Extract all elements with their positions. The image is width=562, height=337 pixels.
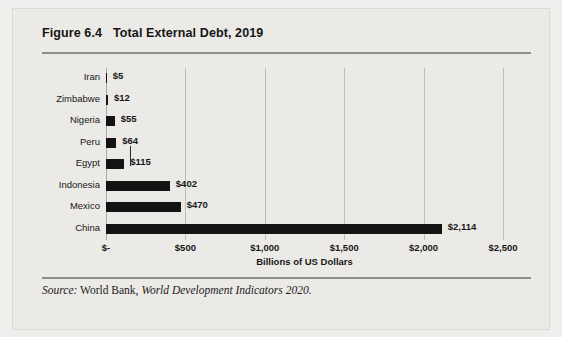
category-label-mexico: Mexico: [38, 200, 100, 211]
source-work: World Development Indicators 2020.: [141, 284, 311, 296]
bar-nigeria[interactable]: [106, 116, 115, 126]
bar-indonesia[interactable]: [106, 181, 170, 191]
bar-value-label: $402: [176, 178, 197, 189]
plot-area: $5$12$55$64$115$402$470$2,114: [106, 68, 503, 240]
x-tick-label-1: $500: [175, 242, 196, 253]
bar-value-label: $115: [130, 156, 151, 167]
x-tick-label-2: $1,000: [250, 242, 279, 253]
gridline-2500: [503, 68, 504, 240]
bar-egypt[interactable]: [106, 159, 124, 169]
category-label-nigeria: Nigeria: [38, 114, 100, 125]
category-label-egypt: Egypt: [38, 157, 100, 168]
figure-block: Figure 6.4Total External Debt, 2019 Iran…: [42, 22, 534, 324]
bar-zimbabwe[interactable]: [106, 95, 108, 105]
bar-value-label: $12: [114, 92, 130, 103]
category-label-zimbabwe: Zimbabwe: [38, 93, 100, 104]
label-leader-line: [130, 146, 131, 167]
x-tick-label-0: $-: [102, 242, 110, 253]
bar-value-label: $2,114: [448, 221, 477, 232]
source-label: Source:: [42, 284, 77, 296]
figure-title-text: Total External Debt, 2019: [113, 26, 263, 40]
category-axis: IranZimbabweNigeriaPeruEgyptIndonesiaMex…: [42, 68, 100, 240]
category-label-china: China: [38, 222, 100, 233]
figure-number: Figure 6.4: [42, 26, 102, 40]
bar-value-label: $5: [113, 70, 124, 81]
bar-chart: IranZimbabweNigeriaPeruEgyptIndonesiaMex…: [42, 64, 531, 272]
category-label-iran: Iran: [38, 71, 100, 82]
bar-iran[interactable]: [106, 73, 107, 83]
bar-value-label: $470: [187, 199, 208, 210]
bar-row: $12: [106, 90, 503, 112]
bar-mexico[interactable]: [106, 202, 181, 212]
divider-top: [42, 52, 531, 54]
divider-bottom: [42, 277, 531, 279]
x-tick-label-3: $1,500: [330, 242, 359, 253]
source-publisher: World Bank,: [80, 284, 138, 296]
bar-peru[interactable]: [106, 138, 116, 148]
bar-value-label: $55: [121, 113, 137, 124]
scanned-page: Figure 6.4Total External Debt, 2019 Iran…: [12, 8, 550, 330]
category-label-peru: Peru: [38, 136, 100, 147]
bar-row: $55: [106, 111, 503, 133]
bar-row: $2,114: [106, 219, 503, 241]
bar-row: $470: [106, 197, 503, 219]
bar-row: $115: [106, 154, 503, 176]
x-tick-label-5: $2,500: [488, 242, 517, 253]
bar-row: $5: [106, 68, 503, 90]
bar-value-label: $64: [122, 135, 138, 146]
x-tick-label-4: $2,000: [409, 242, 438, 253]
bar-row: $402: [106, 176, 503, 198]
x-axis-title: Billions of US Dollars: [106, 256, 503, 267]
figure-title: Figure 6.4Total External Debt, 2019: [42, 26, 263, 40]
bar-china[interactable]: [106, 224, 442, 234]
category-label-indonesia: Indonesia: [38, 179, 100, 190]
bar-row: $64: [106, 133, 503, 155]
source-note: Source: World Bank, World Development In…: [42, 284, 312, 296]
page-background: Figure 6.4Total External Debt, 2019 Iran…: [0, 0, 562, 337]
